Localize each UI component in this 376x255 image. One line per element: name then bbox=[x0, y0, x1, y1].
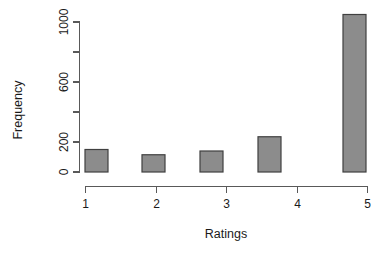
x-tick-label-1: 1 bbox=[82, 197, 89, 211]
x-tick-label-3: 3 bbox=[223, 197, 230, 211]
y-tick-label-200: 200 bbox=[57, 132, 71, 152]
chart-canvas: 0 200 600 1000 Frequency 1 2 bbox=[0, 0, 376, 255]
bar-rating-1 bbox=[85, 150, 108, 173]
bar-rating-4 bbox=[258, 137, 281, 172]
y-tick-label-0: 0 bbox=[57, 168, 71, 175]
x-tick-label-2: 2 bbox=[153, 197, 160, 211]
y-tick-label-600: 600 bbox=[57, 72, 71, 92]
chart-background bbox=[0, 0, 376, 255]
x-axis-title: Ratings bbox=[205, 227, 247, 241]
bar-rating-5 bbox=[343, 15, 366, 173]
histogram-chart: 0 200 600 1000 Frequency 1 2 bbox=[0, 0, 376, 255]
y-axis-title: Frequency bbox=[11, 80, 25, 140]
y-axis-tick-labels: 0 200 600 1000 bbox=[57, 8, 71, 175]
y-tick-label-1000: 1000 bbox=[57, 8, 71, 35]
bar-rating-2 bbox=[142, 155, 165, 172]
bar-rating-3 bbox=[200, 151, 223, 172]
x-tick-label-5: 5 bbox=[364, 197, 371, 211]
x-tick-label-4: 4 bbox=[294, 197, 301, 211]
